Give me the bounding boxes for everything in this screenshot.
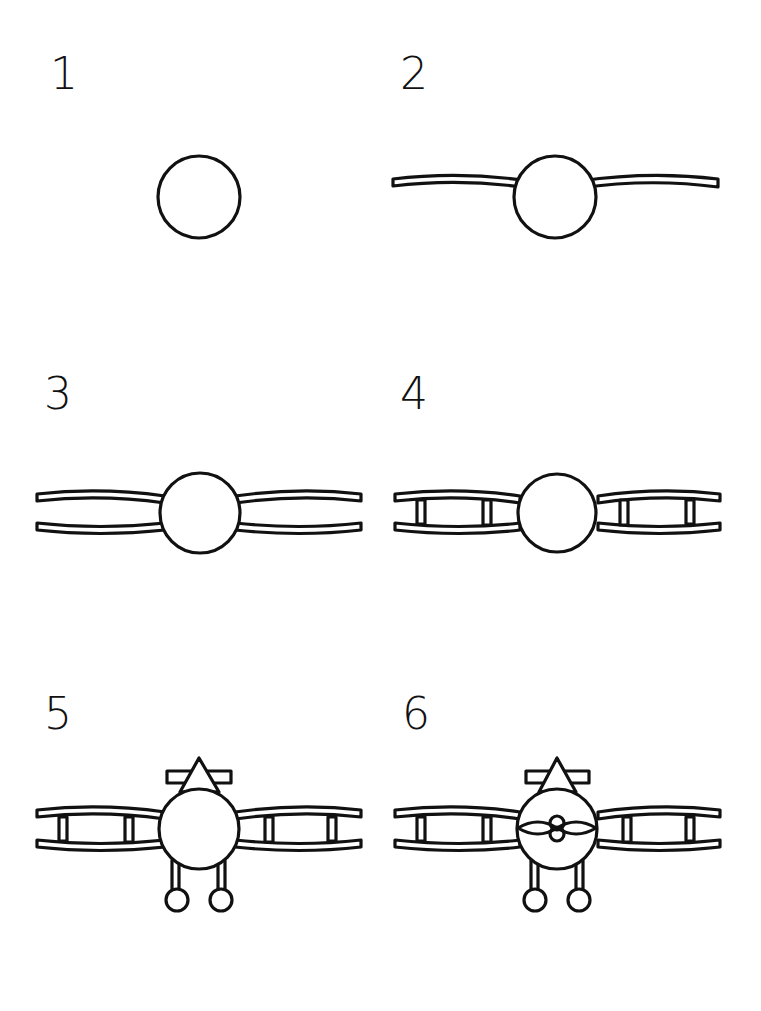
- fuselage-circle: [160, 473, 240, 553]
- strut-right-outer: [686, 817, 694, 841]
- upper-wing-right: [580, 175, 718, 188]
- lower-wing-left: [37, 840, 165, 851]
- strut-right-outer: [686, 500, 694, 524]
- upper-wing-left: [395, 491, 520, 503]
- lower-wing-right: [235, 840, 361, 851]
- strut-left-outer: [417, 817, 425, 841]
- upper-wing-left: [395, 807, 520, 819]
- step-6-drawing: [380, 680, 740, 990]
- lower-wing-left: [395, 523, 520, 534]
- lower-wing-right: [598, 523, 720, 534]
- fuselage-circle: [514, 156, 596, 238]
- lower-wing-left: [37, 523, 165, 534]
- strut-left-inner: [483, 817, 491, 842]
- wheel-right: [568, 889, 590, 911]
- lower-wing-right: [235, 523, 361, 534]
- wheel-left: [166, 889, 188, 911]
- strut-right-inner: [265, 817, 273, 842]
- fuselage-circle: [518, 474, 596, 552]
- step-panel-2: 2: [380, 40, 740, 350]
- upper-wing-right: [598, 807, 720, 819]
- upper-wing-right: [235, 807, 361, 819]
- upper-wing-left: [37, 807, 165, 819]
- step-4-drawing: [380, 360, 740, 670]
- strut-left-outer: [59, 817, 67, 841]
- strut-right-inner: [623, 817, 631, 842]
- upper-wing-right: [598, 491, 720, 503]
- fuselage-circle: [158, 156, 240, 238]
- wheel-left: [524, 889, 546, 911]
- step-panel-5: 5: [20, 680, 380, 990]
- step-5-drawing: [20, 680, 380, 990]
- upper-wing-right: [235, 491, 361, 503]
- strut-right-inner: [620, 500, 628, 525]
- step-panel-1: 1: [25, 40, 385, 350]
- wheel-right: [210, 889, 232, 911]
- lower-wing-left: [395, 840, 520, 851]
- fuselage-circle: [159, 789, 239, 869]
- strut-right-outer: [328, 817, 336, 841]
- step-3-drawing: [20, 360, 380, 670]
- step-panel-6: 6: [380, 680, 740, 990]
- step-panel-3: 3: [20, 360, 380, 670]
- step-panel-4: 4: [380, 360, 740, 670]
- upper-wing-left: [393, 175, 530, 188]
- step-1-drawing: [25, 40, 385, 350]
- step-2-drawing: [380, 40, 740, 350]
- strut-left-inner: [483, 500, 491, 525]
- strut-left-inner: [125, 817, 133, 842]
- lower-wing-right: [598, 840, 720, 851]
- upper-wing-left: [37, 491, 165, 503]
- strut-left-outer: [417, 500, 425, 524]
